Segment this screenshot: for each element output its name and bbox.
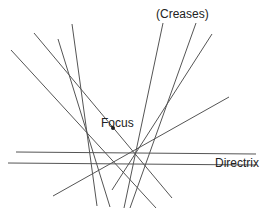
focus-label: Focus bbox=[101, 117, 134, 129]
directrix-label: Directrix bbox=[215, 157, 259, 169]
crease-line bbox=[112, 34, 212, 190]
parabola-folding-diagram bbox=[0, 0, 272, 216]
crease-line bbox=[130, 23, 196, 208]
crease-line bbox=[11, 50, 156, 208]
creases-label: (Creases) bbox=[156, 8, 209, 20]
crease-line bbox=[53, 97, 229, 196]
